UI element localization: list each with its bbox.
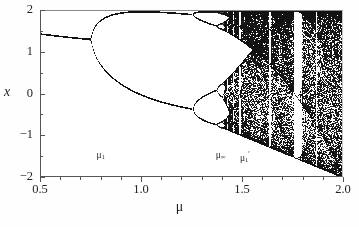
y-tick-1 xyxy=(40,52,45,53)
y-tick-0 xyxy=(40,94,45,95)
x-tick-0.6 xyxy=(60,177,61,180)
x-tick-label-1.5: 1.5 xyxy=(212,182,272,197)
plot-frame: μ1 μ∞ μ1′ xyxy=(40,10,343,177)
y-tick--1 xyxy=(40,135,45,136)
x-tick-1.8 xyxy=(303,177,304,180)
x-tick-1.7 xyxy=(282,177,283,180)
y-tick-label-0: 0 xyxy=(27,86,33,101)
y-axis-title: x xyxy=(4,84,10,100)
y-tick-2 xyxy=(40,10,45,11)
x-tick-label-0.5: 0.5 xyxy=(10,182,70,197)
annotation-mu-1: μ1 xyxy=(97,151,105,161)
x-axis-title: μ xyxy=(0,199,359,215)
y-tick-label--1: −1 xyxy=(20,127,33,142)
x-tick-0.8 xyxy=(101,177,102,180)
y-tick-label-1: 1 xyxy=(27,44,33,59)
x-tick-label-2: 2.0 xyxy=(313,182,359,197)
bifurcation-plot-canvas xyxy=(41,11,343,177)
bifurcation-figure: μ1 μ∞ μ1′ 210−1−20.51.01.52.0 x μ xyxy=(0,0,359,227)
y-tick-1.5 xyxy=(40,31,43,32)
x-tick-1.3 xyxy=(202,177,203,180)
x-tick-1.4 xyxy=(222,177,223,180)
x-tick-1.9 xyxy=(323,177,324,180)
x-tick-label-1: 1.0 xyxy=(111,182,171,197)
x-tick-1.1 xyxy=(161,177,162,180)
x-tick-0.9 xyxy=(121,177,122,180)
annotation-mu-infinity: μ∞ xyxy=(216,151,226,161)
y-tick-label-2: 2 xyxy=(27,2,33,17)
x-tick-1.2 xyxy=(181,177,182,180)
y-tick-0.5 xyxy=(40,73,43,74)
y-tick--0.5 xyxy=(40,114,43,115)
x-tick-1.6 xyxy=(262,177,263,180)
x-tick-0.7 xyxy=(80,177,81,180)
y-tick--1.5 xyxy=(40,156,43,157)
annotation-mu-1-prime: μ1′ xyxy=(240,151,250,164)
